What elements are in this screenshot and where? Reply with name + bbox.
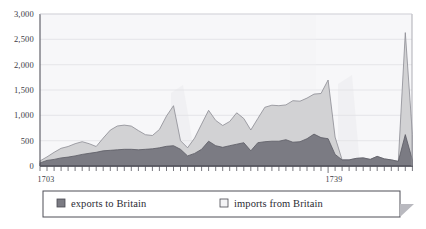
y-tick-1000: 1,000	[14, 110, 34, 120]
legend-label-imports: imports from Britain	[234, 198, 324, 209]
x-tick-marks	[40, 166, 412, 173]
legend-corner-fold-icon	[400, 204, 414, 217]
x-tick-1739: 1739	[326, 175, 343, 184]
chart-figure: 3,000 2,500 2,000 1,500 1,000 500 0 1703…	[0, 0, 426, 229]
y-tick-0: 0	[30, 161, 34, 171]
y-axis-labels: 3,000 2,500 2,000 1,500 1,000 500 0	[14, 9, 34, 171]
plot-area	[40, 14, 412, 166]
legend-item-imports[interactable]: imports from Britain	[220, 198, 324, 209]
legend-swatch-exports-icon	[57, 199, 65, 207]
legend-item-exports[interactable]: exports to Britain	[57, 198, 147, 209]
y-tick-2500: 2,500	[14, 34, 34, 44]
x-axis-labels: 1703 1739	[38, 175, 343, 184]
legend-swatch-imports-icon	[220, 199, 228, 207]
y-tick-2000: 2,000	[14, 60, 34, 70]
y-tick-500: 500	[21, 136, 34, 146]
legend: exports to Britain imports from Britain	[43, 191, 414, 217]
x-tick-1703: 1703	[38, 175, 55, 184]
y-tick-1500: 1,500	[14, 85, 34, 95]
y-tick-3000: 3,000	[14, 9, 34, 19]
legend-label-exports: exports to Britain	[71, 198, 147, 209]
